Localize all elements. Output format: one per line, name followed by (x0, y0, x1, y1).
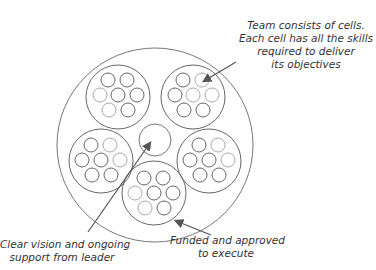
leader-label-line: Clear vision and ongoing (0, 238, 124, 251)
cell-top-left (86, 65, 150, 129)
funded-label-line: Funded and approved (170, 234, 282, 247)
funded-label: Funded and approved to execute (170, 234, 282, 260)
cells-label-line: Each cell has all the skills (238, 32, 374, 45)
leader-label-line: support from leader (0, 251, 124, 264)
team-outer-circle (57, 48, 253, 242)
cell-bottom (122, 161, 186, 225)
cells-label-line: its objectives (238, 58, 374, 71)
cells-label-line: required to deliver (238, 45, 374, 58)
cell-right (177, 129, 241, 193)
cells-label-line: Team consists of cells. (238, 19, 374, 32)
cells-label: Team consists of cells. Each cell has al… (238, 19, 374, 71)
leader-label: Clear vision and ongoing support from le… (0, 238, 124, 264)
funded-label-line: to execute (170, 247, 282, 260)
arrow-cells (204, 62, 236, 81)
arrow-leader (88, 143, 150, 232)
